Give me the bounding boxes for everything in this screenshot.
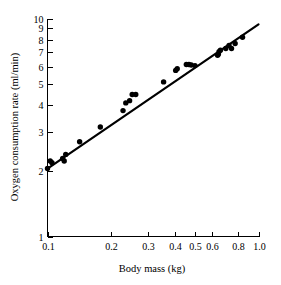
x-tick-label: 0.2	[105, 241, 118, 252]
data-point	[161, 79, 166, 84]
data-point	[120, 108, 125, 113]
y-axis-tick-labels: 12345678910	[34, 14, 44, 243]
y-axis-title: Oxygen consumption rate (ml/min)	[9, 52, 21, 201]
data-point	[218, 48, 223, 53]
x-tick-label: 0.1	[42, 241, 55, 252]
data-point	[49, 160, 54, 165]
x-tick-label: 0.6	[206, 241, 219, 252]
y-tick-label: 3	[39, 127, 44, 138]
x-axis-tick-labels: 0.10.20.30.40.50.60.81.0	[42, 241, 266, 252]
x-tick-label: 0.4	[169, 241, 182, 252]
x-tick-label: 0.8	[232, 241, 245, 252]
data-point	[133, 92, 138, 97]
y-tick-label: 4	[39, 100, 44, 111]
data-point	[232, 41, 237, 46]
data-point	[240, 35, 245, 40]
y-tick-label: 8	[39, 35, 44, 46]
data-point	[45, 166, 50, 171]
data-point	[127, 98, 132, 103]
axes-frame	[48, 19, 259, 237]
x-axis-ticks	[49, 232, 260, 237]
data-point	[62, 158, 67, 163]
data-point	[63, 152, 68, 157]
x-tick-label: 0.3	[142, 241, 155, 252]
y-axis-ticks	[48, 20, 53, 238]
y-tick-label: 10	[34, 14, 44, 25]
y-tick-label: 7	[39, 47, 44, 58]
data-point	[77, 139, 82, 144]
figure-container: 12345678910 0.10.20.30.40.50.60.81.0 Bod…	[0, 0, 281, 285]
y-tick-label: 2	[39, 166, 44, 177]
y-tick-label: 5	[39, 79, 44, 90]
chart-canvas: 12345678910 0.10.20.30.40.50.60.81.0 Bod…	[0, 0, 281, 285]
x-axis-title: Body mass (kg)	[119, 263, 186, 275]
x-tick-label: 1.0	[253, 241, 266, 252]
x-tick-label: 0.5	[189, 241, 202, 252]
y-tick-label: 6	[39, 62, 44, 73]
data-point	[98, 124, 103, 129]
data-point	[175, 66, 180, 71]
data-point	[192, 63, 197, 68]
data-point	[229, 46, 234, 51]
